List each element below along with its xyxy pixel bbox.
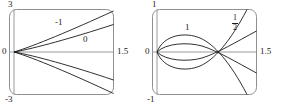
curve-left-lower-inner <box>14 52 114 80</box>
curve-right-arch-lower-flat <box>157 31 257 60</box>
curve-left-lower-outer <box>14 52 114 94</box>
axis-label-y-bottom-left: -3 <box>5 95 13 104</box>
axis-label-y-bottom-right: -1 <box>147 95 155 104</box>
axis-label-origin-right: 0 <box>145 47 150 56</box>
plot-panel-right: 1 -1 0 1.5 1 1 2 <box>144 0 287 106</box>
curve-right-arch-upper-flat <box>157 44 257 73</box>
curve-label-one: 1 <box>185 23 190 32</box>
curve-label-minus-one: -1 <box>55 18 63 27</box>
curve-left-upper-inner <box>14 25 114 53</box>
figure-two-panel-ode-solution-curves: 3 -3 0 1.5 -1 0 <box>0 0 287 106</box>
curve-label-one-half: 1 2 <box>232 14 238 32</box>
axis-label-x-right-right: 1.5 <box>260 47 271 56</box>
fraction-denominator: 2 <box>232 24 238 32</box>
plot-panel-left: 3 -3 0 1.5 -1 0 <box>0 0 144 106</box>
fraction-numerator: 1 <box>232 14 238 22</box>
axis-label-x-right-left: 1.5 <box>117 47 128 56</box>
axis-label-y-top-left: 3 <box>8 0 13 9</box>
axis-label-y-top-right: 1 <box>152 0 157 9</box>
curve-label-zero: 0 <box>83 35 88 44</box>
curve-left-upper-outer <box>14 11 114 52</box>
axis-label-origin-left: 0 <box>2 47 7 56</box>
